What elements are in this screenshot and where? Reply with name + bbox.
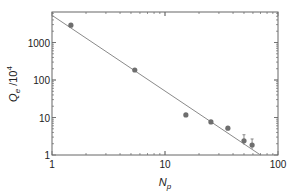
data-point <box>250 142 255 147</box>
y-axis-label: Qe /104 <box>5 66 22 102</box>
x-tick-label: 100 <box>270 159 287 170</box>
data-point <box>132 67 137 72</box>
data-point <box>183 112 188 117</box>
fit-line <box>52 15 260 155</box>
y-tick-label: 1 <box>44 150 50 161</box>
y-tick-label: 10 <box>39 113 51 124</box>
y-tick-label: 100 <box>33 75 50 86</box>
data-point <box>208 119 213 124</box>
chart: 1101001101001000NpQe /104 <box>0 0 302 191</box>
x-tick-label: 1 <box>49 159 55 170</box>
data-point <box>68 23 73 28</box>
x-tick-label: 10 <box>159 159 171 170</box>
plot-area: 1101001101001000NpQe /104 <box>0 0 302 191</box>
data-point <box>225 126 230 131</box>
data-point <box>241 138 246 143</box>
plot-frame <box>52 12 278 155</box>
y-tick-label: 1000 <box>28 38 51 49</box>
x-axis-label: Np <box>159 176 172 191</box>
